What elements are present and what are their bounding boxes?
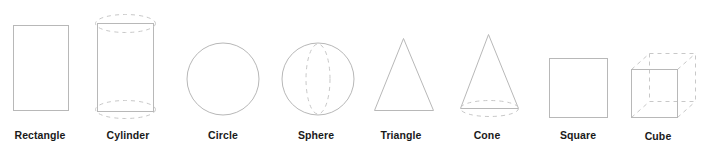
shapes-diagram: Rectangle Cylinder Circle Sphere Triangl…: [0, 0, 703, 154]
cone-label: Cone: [474, 129, 501, 141]
cone-shape: [461, 35, 519, 117]
triangle-shape: [375, 39, 434, 111]
cube-shape: [632, 54, 696, 118]
circle-label: Circle: [208, 129, 238, 141]
cube-label: Cube: [645, 130, 672, 142]
triangle-label: Triangle: [380, 129, 421, 141]
square-shape: [550, 59, 608, 118]
sphere-shape: [282, 43, 354, 115]
rectangle-label: Rectangle: [14, 129, 65, 141]
circle-shape: [187, 43, 259, 115]
shapes-canvas: [0, 0, 703, 154]
cylinder-label: Cylinder: [107, 129, 150, 141]
sphere-label: Sphere: [298, 129, 334, 141]
rectangle-shape: [14, 26, 69, 111]
square-label: Square: [560, 129, 596, 141]
cylinder-shape: [96, 15, 156, 119]
